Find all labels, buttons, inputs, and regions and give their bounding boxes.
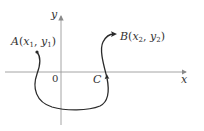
point-a-name: A — [11, 35, 19, 48]
curve-diagram — [0, 0, 204, 131]
x-axis-label: x — [181, 74, 187, 85]
point-b-label: B(x2, y2) — [120, 31, 165, 44]
point-b-name: B — [120, 30, 128, 43]
point-b-y-sub: 2 — [156, 36, 160, 44]
point-a-label: A(x1, y1) — [11, 36, 56, 49]
curve-label: C — [93, 74, 101, 85]
point-b-x-sub: 2 — [139, 36, 143, 44]
point-a-dot — [35, 50, 38, 53]
origin-label: 0 — [52, 74, 58, 84]
point-a-y-sub: 1 — [47, 41, 51, 49]
point-a-x-sub: 1 — [29, 41, 33, 49]
y-axis-label: y — [51, 9, 57, 20]
